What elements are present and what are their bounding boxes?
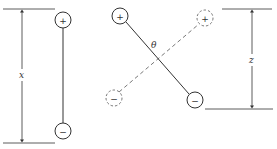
negative-sign: −: [59, 127, 67, 137]
solid-positive-sign: +: [116, 12, 124, 22]
solid-dipole-rod: [126, 22, 189, 94]
z-label: z: [248, 55, 254, 65]
dashed-positive-sign: +: [201, 14, 209, 24]
right-dimension: z: [205, 9, 273, 109]
theta-label: θ: [151, 40, 157, 50]
positive-sign: +: [59, 16, 67, 26]
dashed-dipole-rod: [119, 24, 199, 92]
dipole-diagram: x + − + − + − θ z: [0, 0, 277, 149]
left-dipole: x + −: [3, 9, 71, 143]
dashed-negative-sign: −: [110, 94, 118, 104]
x-label: x: [19, 70, 24, 80]
rotated-dipole: + − + − θ: [106, 8, 213, 108]
solid-negative-sign: −: [191, 96, 199, 106]
